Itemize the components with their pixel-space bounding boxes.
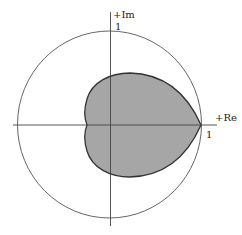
real-axis-label: +Re	[215, 112, 237, 123]
imag-tick-label: 1	[115, 21, 121, 32]
imag-axis-label: +Im	[113, 9, 135, 20]
real-tick-label: 1	[206, 129, 212, 140]
complex-plane-diagram: +Im 1 +Re 1	[0, 0, 242, 235]
